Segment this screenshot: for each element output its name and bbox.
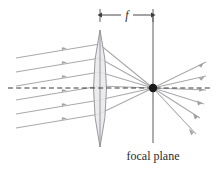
ray-out-1	[153, 62, 206, 88]
ray-in-5	[16, 100, 100, 114]
diverging-ray-arrowheads	[189, 63, 205, 135]
incoming-rays-group	[16, 44, 100, 128]
ray-mid-5	[99, 88, 153, 100]
focal-point	[149, 84, 157, 92]
ray-mid-1	[99, 44, 153, 88]
diverging-rays-group	[153, 62, 206, 134]
ray-diagram-svg: f focal plane	[0, 0, 219, 169]
ray-in-1	[16, 44, 100, 58]
ray-mid-6	[99, 88, 153, 114]
arrowhead-out-4	[197, 101, 203, 106]
arrowhead-out-1	[198, 63, 204, 68]
focal-plane-label: focal plane	[127, 149, 180, 163]
refracted-rays-group	[99, 44, 153, 114]
ray-in-2	[16, 58, 100, 72]
ray-in-6	[16, 114, 100, 128]
arrowhead-out-5	[193, 113, 198, 119]
ray-mid-3	[99, 72, 153, 88]
focal-length-dimension: f	[100, 7, 153, 22]
optics-figure: f focal plane	[0, 0, 219, 169]
ray-in-3	[16, 72, 100, 86]
ray-out-2	[153, 76, 206, 88]
ray-mid-2	[99, 58, 153, 88]
incoming-ray-arrowheads	[62, 47, 67, 120]
